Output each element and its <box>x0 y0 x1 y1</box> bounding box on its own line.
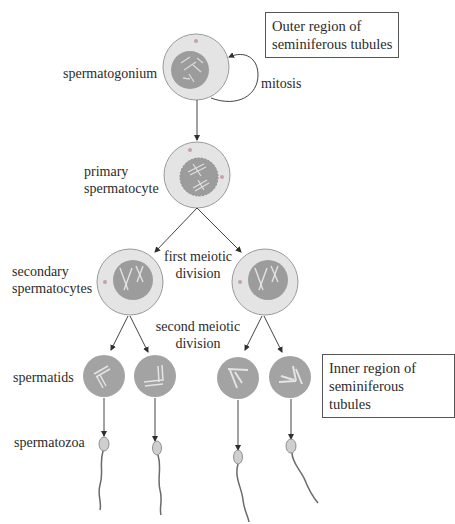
secondary-spermatocyte-left <box>97 249 163 315</box>
spermatozoon-4 <box>286 439 318 503</box>
sperm-tail <box>99 451 103 510</box>
nucleus <box>248 260 288 300</box>
sperm-tail <box>292 453 318 503</box>
spermatozoon-3 <box>234 450 250 522</box>
nucleus <box>113 260 153 300</box>
arrow-to-secondary-left <box>155 208 197 252</box>
secondary-spermatocyte-right <box>232 249 298 315</box>
sperm-head <box>286 439 296 453</box>
spermatid-3 <box>217 357 259 399</box>
spermatid-body <box>134 355 176 397</box>
centriole-icon <box>194 39 198 43</box>
spermatozoon-2 <box>153 441 162 515</box>
arrow-to-secondary-right <box>197 208 241 252</box>
arrow-to-spermatid-4 <box>264 316 282 352</box>
nucleus <box>171 51 209 89</box>
sperm-tail <box>158 455 161 515</box>
centriole-icon <box>238 280 242 284</box>
sperm-tail <box>237 464 249 522</box>
spermatid-body <box>83 355 125 397</box>
centriole-icon <box>188 148 192 152</box>
sperm-head <box>153 441 162 455</box>
spermatozoon-1 <box>99 437 109 510</box>
spermatogenesis-diagram <box>0 0 455 524</box>
spermatid-body <box>269 356 311 398</box>
sperm-head <box>234 450 243 464</box>
sperm-head <box>99 437 109 451</box>
centriole-icon <box>220 175 224 179</box>
primary-spermatocyte-cell <box>164 142 230 208</box>
spermatid-4 <box>269 356 311 398</box>
arrow-to-spermatid-3 <box>245 316 262 350</box>
centriole-icon <box>103 280 107 284</box>
spermatid-2 <box>134 355 176 397</box>
spermatogonium-cell <box>163 34 229 100</box>
arrow-to-spermatid-1 <box>111 316 128 350</box>
arrow-to-spermatid-2 <box>130 316 148 352</box>
spermatid-1 <box>83 355 125 397</box>
nucleus <box>180 158 218 196</box>
